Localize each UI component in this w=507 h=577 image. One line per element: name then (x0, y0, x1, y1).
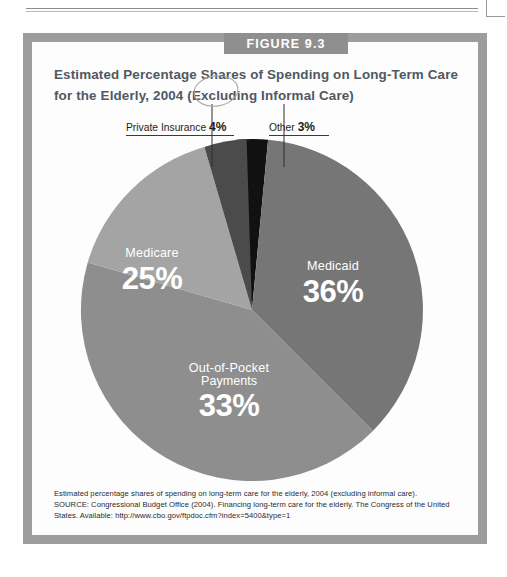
figure-frame: FIGURE 9.3 Estimated Percentage Shares o… (23, 33, 487, 544)
page-top-rule (26, 8, 478, 9)
figure-caption: Estimated percentage shares of spending … (54, 488, 469, 522)
pie-slices (81, 139, 423, 481)
handwritten-circle-annotation (192, 73, 240, 109)
caption-line-1: Estimated percentage shares of spending … (54, 488, 469, 499)
caption-line-2: SOURCE: Congressional Budget Office (200… (54, 499, 469, 510)
caption-line-3: States. Available: http://www.cbo.gov/ft… (54, 510, 469, 521)
page-corner-mark (486, 0, 505, 17)
pie-chart (32, 42, 478, 535)
figure-inner-panel: FIGURE 9.3 Estimated Percentage Shares o… (32, 42, 478, 535)
page-top-rule-secondary (26, 11, 478, 12)
